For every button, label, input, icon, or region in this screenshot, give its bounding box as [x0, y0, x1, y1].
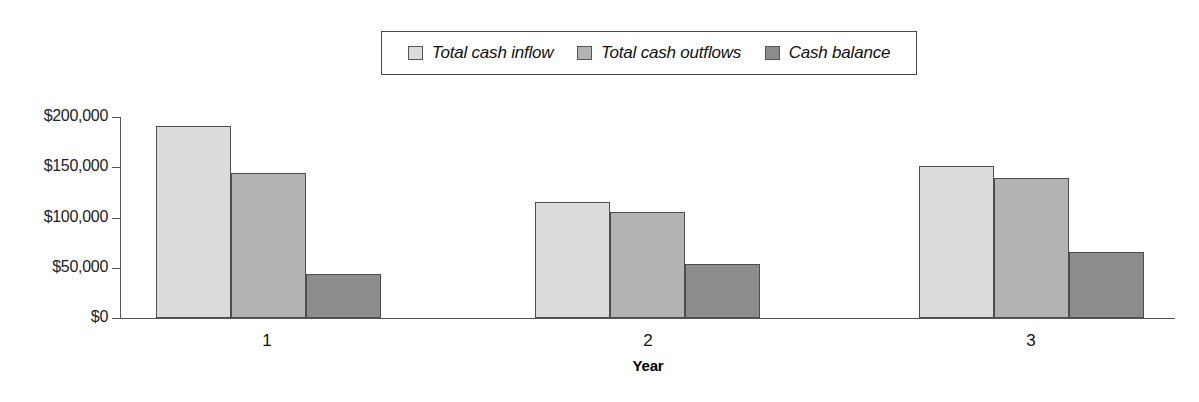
x-axis-tick-label: 1	[262, 331, 271, 351]
plot-area	[0, 0, 1199, 318]
x-axis-tick-label: 3	[1026, 331, 1035, 351]
bar	[535, 202, 610, 318]
bar	[919, 166, 994, 318]
x-axis-tick-label: 2	[643, 331, 652, 351]
y-axis-tick-mark	[112, 318, 121, 319]
bar-chart: Total cash inflow Total cash outflows Ca…	[0, 0, 1199, 402]
bar	[231, 173, 306, 318]
bar	[306, 274, 381, 318]
bar	[994, 178, 1069, 318]
bar	[1069, 252, 1144, 318]
bar	[156, 126, 231, 318]
x-axis-line	[120, 318, 1175, 319]
x-axis-title: Year	[633, 357, 664, 374]
bar	[610, 212, 685, 318]
bar	[685, 264, 760, 318]
